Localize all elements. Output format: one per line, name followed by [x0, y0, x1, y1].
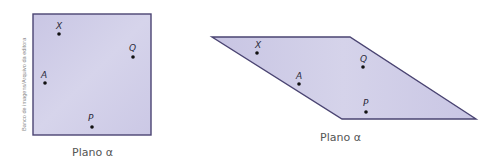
- point-label-a: A: [295, 71, 302, 81]
- plane-parallelogram: [212, 37, 476, 119]
- square-plane-view: X Q A P Plano α: [33, 14, 151, 159]
- point-label-q: Q: [360, 54, 367, 64]
- point-dot: [255, 51, 259, 55]
- point-dot: [43, 81, 47, 85]
- point-dot: [297, 82, 301, 86]
- point-label-a: A: [40, 70, 47, 80]
- point-label-p: P: [363, 98, 369, 108]
- plane-diagram: Banco de imagens/Arquivo da editora X Q …: [0, 0, 496, 163]
- caption-perspective: Plano α: [320, 131, 361, 144]
- point-label-x: X: [55, 21, 63, 31]
- point-dot: [57, 32, 61, 36]
- image-credit: Banco de imagens/Arquivo da editora: [21, 37, 27, 131]
- point-dot: [90, 125, 94, 129]
- perspective-plane-view: X A Q P Plano α: [212, 37, 476, 144]
- point-label-p: P: [88, 113, 94, 123]
- caption-square: Plano α: [72, 146, 113, 159]
- point-label-x: X: [254, 40, 262, 50]
- point-dot: [361, 65, 365, 69]
- point-dot: [131, 55, 135, 59]
- point-dot: [364, 110, 368, 114]
- point-label-q: Q: [129, 43, 136, 53]
